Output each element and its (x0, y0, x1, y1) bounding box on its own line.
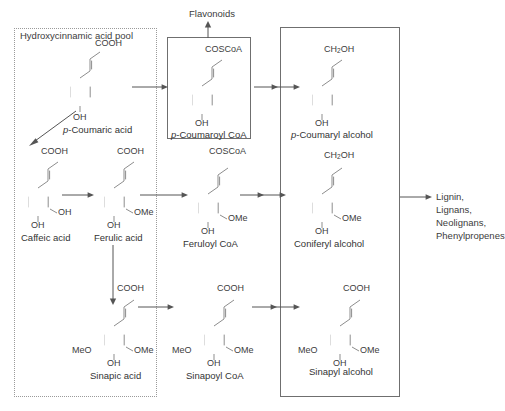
arrow-coumaric-to-caffeic (26, 110, 78, 148)
coniferyl-alcohol-para-group: OH (315, 226, 329, 237)
p-coumaroyl-coa-para-group: OH (195, 118, 209, 129)
sinapoyl-coa-meta-right-group: OMe (234, 345, 254, 356)
arrow-ferulic-to-feruloyl-coa (140, 190, 188, 200)
sinapic-acid-meta-right-group: OMe (134, 345, 154, 356)
sinapyl-alcohol-meta-left-group: MeO (298, 345, 318, 356)
feruloyl-coa-para-group: OH (201, 226, 215, 237)
arrow-sinapic-to-sinapoyl-coa (138, 302, 174, 312)
product-lignin: Lignin, (436, 190, 505, 203)
p-coumaryl-alcohol-top-group: CH2OH (324, 44, 354, 56)
molecule-p-coumaric-acid (70, 40, 132, 122)
caffeic-acid-para-group: OH (31, 220, 45, 231)
sinapoyl-coa-top-group: COOH (217, 283, 244, 294)
p-coumaroyl-coa-name-rest: -Coumaroyl CoA (176, 129, 246, 140)
coniferyl-alcohol-top-group: CH2OH (324, 150, 354, 162)
feruloyl-coa-label: Feruloyl CoA (183, 238, 238, 249)
sinapoyl-coa-para-group: OH (207, 358, 221, 369)
sinapyl-alcohol-label: Sinapyl alcohol (309, 366, 373, 377)
p-coumaryl-alcohol-ch: CH (324, 44, 337, 54)
pathway-diagram: Hydroxycinnamic acid pool Flavonoids COO… (0, 0, 505, 411)
coniferyl-alcohol-meta-group: OMe (342, 213, 362, 224)
p-coumaric-acid-top-group: COOH (95, 38, 122, 49)
product-phenylpropenes: Phenylpropenes (436, 229, 505, 242)
arrow-caffeic-to-ferulic (62, 190, 94, 200)
arrow-feruloyl-coa-to-coniferyl-alcohol (240, 190, 286, 200)
feruloyl-coa-meta-group: OMe (228, 213, 248, 224)
caffeic-acid-meta-group: OH (58, 207, 72, 218)
p-coumaryl-alcohol-label: p-Coumaryl alcohol (291, 129, 373, 140)
p-coumaryl-alcohol-name-rest: -Coumaryl alcohol (296, 129, 373, 140)
sinapoyl-coa-label: Sinapoyl CoA (186, 370, 244, 381)
arrow-to-flavonoids (203, 21, 213, 38)
p-coumaryl-alcohol-para-group: OH (315, 118, 329, 129)
flavonoids-label: Flavonoids (189, 8, 235, 19)
sinapic-acid-para-group: OH (107, 358, 121, 369)
coniferyl-alcohol-label: Coniferyl alcohol (294, 238, 364, 249)
p-coumaroyl-coa-top-group: COSCoA (205, 44, 242, 55)
feruloyl-coa-top-group: COSCoA (209, 146, 246, 157)
sinapyl-alcohol-top-group: COOH (343, 283, 370, 294)
arrow-coumaric-to-coumaroyl-coa (132, 82, 168, 92)
ferulic-acid-para-group: OH (107, 220, 121, 231)
coniferyl-alcohol-oh: OH (341, 150, 355, 160)
sinapic-acid-label: Sinapic acid (90, 370, 141, 381)
caffeic-acid-top-group: COOH (41, 146, 68, 157)
sinapic-acid-meta-left-group: MeO (72, 345, 92, 356)
arrow-to-lignin-products (400, 192, 432, 202)
lignin-products-list: Lignin, Lignans, Neolignans, Phenylprope… (436, 190, 505, 242)
p-coumaryl-alcohol-oh: OH (341, 44, 355, 54)
arrow-sinapoyl-coa-to-sinapyl-alcohol (252, 302, 300, 312)
ferulic-acid-meta-group: OMe (134, 207, 154, 218)
sinapoyl-coa-meta-left-group: MeO (172, 345, 192, 356)
product-neolignans: Neolignans, (436, 216, 505, 229)
caffeic-acid-label: Caffeic acid (21, 232, 70, 243)
ferulic-acid-label: Ferulic acid (94, 232, 143, 243)
product-lignans: Lignans, (436, 203, 505, 216)
p-coumaroyl-coa-label: p-Coumaroyl CoA (171, 129, 247, 140)
arrow-coumaroyl-coa-to-coumaryl-alcohol (254, 82, 300, 92)
sinapic-acid-top-group: COOH (117, 283, 144, 294)
sinapyl-alcohol-meta-right-group: OMe (360, 345, 380, 356)
ferulic-acid-top-group: COOH (117, 146, 144, 157)
coniferyl-alcohol-ch: CH (324, 150, 337, 160)
